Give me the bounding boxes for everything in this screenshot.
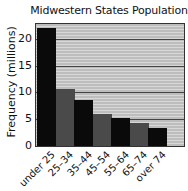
y-tick-15: 15 <box>14 60 32 71</box>
bar-5 <box>130 123 149 146</box>
gridline-15 <box>36 66 184 67</box>
bar-4 <box>111 118 130 146</box>
bar-1 <box>56 89 75 146</box>
y-tick-0: 0 <box>14 140 32 151</box>
gridline-20 <box>36 39 184 40</box>
y-tick-5: 5 <box>14 113 32 124</box>
chart-title: Midwestern States Population <box>30 4 188 17</box>
y-tick-20: 20 <box>14 33 32 44</box>
bar-2 <box>74 100 93 146</box>
bar-6 <box>148 128 167 146</box>
plot-area <box>35 23 185 147</box>
y-tick-10: 10 <box>14 86 32 97</box>
bar-3 <box>93 114 112 146</box>
bar-0 <box>37 28 56 146</box>
